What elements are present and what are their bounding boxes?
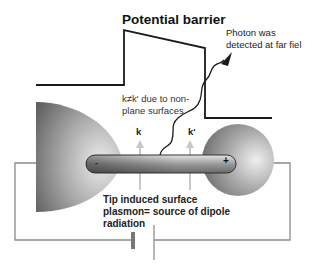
photon-label-line2: detected at far fiel [226, 39, 302, 51]
k-note-label: k≠k' due to non- plane surfaces [122, 93, 189, 117]
dipole-rod [86, 155, 236, 173]
k-label: k [136, 126, 141, 137]
tip-label-line3: radiation [103, 218, 230, 230]
tip-label-line1: Tip induced surface [103, 194, 230, 206]
k-note-line2: plane surfaces [122, 105, 189, 117]
minus-sign: - [95, 158, 98, 168]
tip-label-line2: plasmon= source of dipole [103, 206, 230, 218]
photon-detected-label: Photon was detected at far fiel [226, 27, 302, 51]
tip-plasmon-label: Tip induced surface plasmon= source of d… [103, 194, 230, 230]
diagram-title: Potential barrier [122, 12, 226, 27]
plus-sign: + [223, 155, 229, 166]
photon-label-line1: Photon was [226, 27, 302, 39]
k-prime-label: k' [188, 126, 196, 137]
battery-icon [131, 225, 154, 260]
photon-arrowhead [221, 52, 232, 66]
k-note-line1: k≠k' due to non- [122, 93, 189, 105]
diagram-canvas: Potential barrier Photon was detected at… [0, 0, 315, 270]
